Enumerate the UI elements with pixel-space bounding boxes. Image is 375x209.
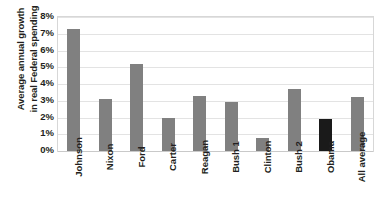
y-axis-tick-label: 5% bbox=[40, 60, 54, 72]
x-label-slot: Ford bbox=[120, 152, 152, 209]
x-label-slot: Bush 2 bbox=[278, 152, 310, 209]
x-label-slot: Johnson bbox=[57, 152, 89, 209]
y-axis-tick-label: 3% bbox=[40, 94, 54, 106]
x-label-slot: Reagan bbox=[183, 152, 215, 209]
x-label-slot: Carter bbox=[152, 152, 184, 209]
bar[interactable] bbox=[67, 29, 80, 151]
x-axis-category-label: Clinton bbox=[262, 141, 273, 174]
y-axis-tick-labels: 0%1%2%3%4%5%6%7%8% bbox=[28, 10, 54, 156]
bar[interactable] bbox=[130, 64, 143, 151]
y-axis-tick-label: 0% bbox=[40, 144, 54, 156]
y-axis-tick-label: 8% bbox=[40, 10, 54, 22]
bar-slot bbox=[247, 17, 279, 151]
x-axis-category-label: Ford bbox=[136, 146, 147, 167]
x-axis-category-label: Carter bbox=[167, 143, 178, 171]
bar-slot bbox=[279, 17, 311, 151]
x-label-slot: Bush 1 bbox=[215, 152, 247, 209]
bar-slot bbox=[153, 17, 185, 151]
x-axis-category-label: Johnson bbox=[73, 137, 84, 177]
plot-area bbox=[57, 16, 374, 152]
y-axis-tick-label: 1% bbox=[40, 127, 54, 139]
y-axis-tick-label: 6% bbox=[40, 44, 54, 56]
x-label-slot: All average bbox=[341, 152, 373, 209]
x-label-slot: Nixon bbox=[89, 152, 121, 209]
x-axis-category-label: Nixon bbox=[104, 144, 115, 170]
x-axis-category-label: All average bbox=[356, 132, 367, 183]
x-label-slot: Obama bbox=[309, 152, 341, 209]
bar-slot bbox=[216, 17, 248, 151]
bars-layer bbox=[58, 17, 373, 151]
x-axis-category-labels: JohnsonNixonFordCarterReaganBush 1Clinto… bbox=[57, 152, 372, 209]
bar-slot bbox=[184, 17, 216, 151]
x-label-slot: Clinton bbox=[246, 152, 278, 209]
x-axis-category-label: Bush 1 bbox=[230, 141, 241, 173]
y-axis-tick-label: 2% bbox=[40, 111, 54, 123]
x-axis-category-label: Reagan bbox=[199, 140, 210, 174]
bar-slot bbox=[121, 17, 153, 151]
x-axis-category-label: Bush 2 bbox=[293, 141, 304, 173]
bar-slot bbox=[58, 17, 90, 151]
bar-slot bbox=[310, 17, 342, 151]
bar-chart: Average annual growth in real Federal sp… bbox=[0, 0, 375, 209]
y-axis-title-line-1: Average annual growth bbox=[15, 8, 27, 111]
y-axis-tick-label: 4% bbox=[40, 77, 54, 89]
bar-slot bbox=[90, 17, 122, 151]
y-axis-tick-label: 7% bbox=[40, 27, 54, 39]
x-axis-category-label: Obama bbox=[325, 141, 336, 173]
